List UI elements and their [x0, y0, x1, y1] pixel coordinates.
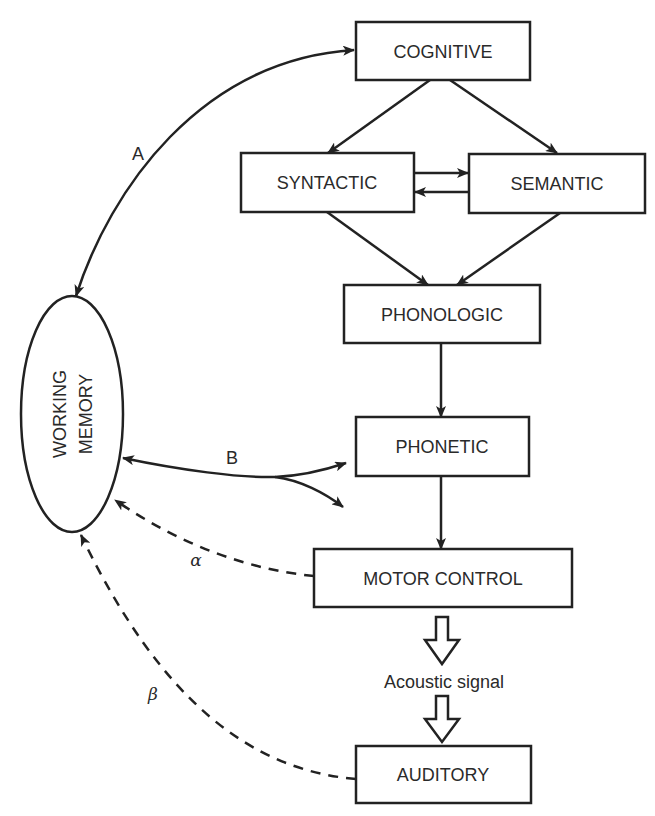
node-auditory: AUDITORY [356, 746, 531, 803]
node-syntactic: SYNTACTIC [241, 153, 414, 212]
working-memory-label-line1: WORKING [50, 370, 70, 458]
node-semantic: SEMANTIC [469, 154, 645, 213]
link-alpha-label: α [190, 550, 202, 570]
node-phonologic: PHONOLOGIC [344, 285, 540, 343]
edge-b-phonetic-lower-fork [275, 477, 343, 507]
node-motor-control-label: MOTOR CONTROL [363, 569, 523, 589]
edge-cognitive-syntactic [328, 80, 430, 153]
diagram-canvas: COGNITIVE SYNTACTIC SEMANTIC PHONOLOGIC … [0, 0, 655, 816]
working-memory-label-line2: MEMORY [76, 374, 96, 455]
node-phonetic: PHONETIC [356, 417, 529, 476]
edge-semantic-phonologic [457, 213, 560, 285]
hollow-arrow-acoustic-to-auditory [425, 696, 459, 742]
node-phonetic-label: PHONETIC [395, 437, 488, 457]
node-auditory-label: AUDITORY [397, 765, 489, 785]
dashed-edges [81, 500, 356, 779]
node-cognitive-label: COGNITIVE [393, 42, 492, 62]
edge-syntactic-phonologic [327, 212, 428, 285]
link-a-label: A [132, 144, 144, 164]
edge-alpha-motor-working-memory [115, 500, 314, 576]
node-semantic-label: SEMANTIC [510, 174, 603, 194]
node-syntactic-label: SYNTACTIC [277, 173, 378, 193]
node-working-memory: WORKING MEMORY [21, 296, 123, 532]
acoustic-signal-label: Acoustic signal [384, 672, 504, 692]
node-phonologic-label: PHONOLOGIC [381, 305, 503, 325]
node-motor-control: MOTOR CONTROL [314, 549, 572, 607]
edge-cognitive-semantic [450, 80, 557, 153]
hollow-arrow-motor-to-acoustic [425, 617, 459, 664]
node-cognitive: COGNITIVE [356, 22, 530, 80]
link-beta-label: β [147, 684, 158, 704]
link-b-label: B [226, 448, 238, 468]
